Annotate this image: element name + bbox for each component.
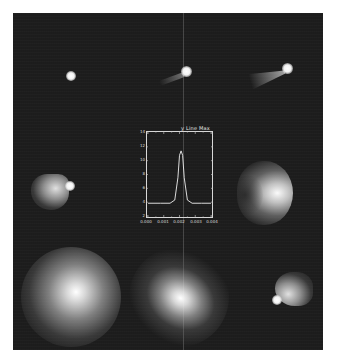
y-tick-label: 4 [137,200,145,204]
y-tick-label: 14 [137,130,145,134]
x-tick-label: 0.001 [156,220,170,224]
y-tick-label: 12 [137,144,145,148]
x-tick-label: 0.004 [205,220,219,224]
x-tick-label: 0.003 [189,220,203,224]
y-tick-label: 2 [137,214,145,218]
comet-panel-bottom-left [15,241,130,350]
x-tick-label: 0.002 [172,220,186,224]
figure-frame: y Line Max 14 12 10 8 6 4 2 0.000 0.001 … [13,13,323,350]
comet-coma [21,247,121,347]
comet-panel-bottom-right [263,268,323,318]
comet-nucleus [66,71,76,81]
comet-nucleus [65,181,75,191]
comet-panel-bottom-center [123,241,238,350]
x-tick-label: 0.000 [139,220,153,224]
comet-nucleus [181,66,192,77]
comet-panel-top-center [148,61,198,91]
comet-panel-top-left [58,63,88,93]
comet-nucleus [272,295,282,305]
plot-line-series [146,131,213,218]
comet-panel-middle-left [25,168,85,218]
y-tick-label: 6 [137,186,145,190]
y-tick-label: 8 [137,172,145,176]
comet-panel-middle-right [231,153,306,233]
comet-coma [31,174,69,210]
comet-coma [109,227,248,350]
comet-panel-top-right [243,58,303,98]
comet-nucleus [282,63,293,74]
line-max-plot: y Line Max 14 12 10 8 6 4 2 0.000 0.001 … [137,125,242,235]
y-tick-label: 10 [137,158,145,162]
